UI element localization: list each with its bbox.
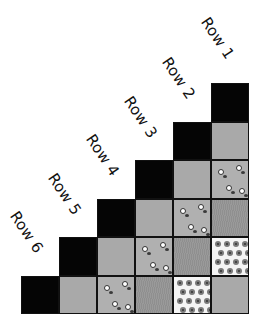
flower-motif <box>245 250 249 256</box>
flower-motif <box>188 224 194 230</box>
flower-motif <box>195 298 201 304</box>
leaf-motif <box>193 230 197 233</box>
flower-motif <box>227 268 233 274</box>
quilt-block-gray <box>173 160 211 199</box>
flower-motif <box>125 304 131 310</box>
quilt-block-gray <box>211 122 249 161</box>
flower-motif <box>180 307 186 313</box>
flower-motif <box>104 285 110 291</box>
flower-motif <box>218 169 224 175</box>
flower-motif <box>236 250 242 256</box>
flower-motif <box>236 165 242 171</box>
quilt-block-floral-small <box>135 237 173 276</box>
leaf-motif <box>231 191 235 194</box>
flower-motif <box>233 241 239 247</box>
row-label-1: Row 1 <box>197 14 238 63</box>
quilt-block-stripe <box>211 199 249 238</box>
flower-motif <box>189 289 195 295</box>
flower-motif <box>227 250 233 256</box>
flower-motif <box>189 307 195 313</box>
flower-motif <box>224 259 230 265</box>
leaf-motif <box>206 233 210 236</box>
flower-motif <box>245 268 249 274</box>
leaf-motif <box>147 252 151 255</box>
flower-motif <box>242 259 248 265</box>
flower-motif <box>198 204 204 210</box>
quilt-block-stripe <box>173 237 211 276</box>
flower-motif <box>218 268 224 274</box>
quilt-block-black <box>97 199 135 238</box>
leaf-motif <box>244 194 248 197</box>
quilt-block-gray <box>59 276 97 315</box>
flower-motif <box>204 298 210 304</box>
flower-motif <box>163 265 169 271</box>
flower-motif <box>201 227 207 233</box>
flower-motif <box>226 185 232 191</box>
flower-motif <box>239 188 245 194</box>
flower-motif <box>236 268 242 274</box>
flower-motif <box>177 280 183 286</box>
quilt-block-black <box>59 237 97 276</box>
flower-motif <box>142 246 148 252</box>
quilt-block-black <box>211 83 249 122</box>
flower-motif <box>233 259 239 265</box>
flower-motif <box>224 241 230 247</box>
flower-motif <box>180 208 186 214</box>
flower-motif <box>160 242 166 248</box>
quilt-grid <box>21 83 249 314</box>
flower-motif <box>177 298 183 304</box>
flower-motif <box>186 280 192 286</box>
leaf-motif <box>185 214 189 217</box>
quilt-block-gray <box>135 199 173 238</box>
leaf-motif <box>165 248 169 251</box>
leaf-motif <box>223 175 227 178</box>
quilt-block-black <box>21 276 59 315</box>
quilt-block-gray <box>211 276 249 315</box>
leaf-motif <box>127 287 131 290</box>
leaf-motif <box>168 271 172 274</box>
flower-motif <box>215 241 221 247</box>
flower-motif <box>218 250 224 256</box>
flower-motif <box>198 289 204 295</box>
flower-motif <box>215 259 221 265</box>
quilt-block-floral-white <box>211 237 249 276</box>
quilt-block-stripe <box>135 276 173 315</box>
leaf-motif <box>117 307 121 310</box>
quilt-block-black <box>173 122 211 161</box>
leaf-motif <box>130 310 134 313</box>
leaf-motif <box>203 210 207 213</box>
quilt-block-floral-small <box>211 160 249 199</box>
quilt-block-floral-small <box>97 276 135 315</box>
leaf-motif <box>155 268 159 271</box>
flower-motif <box>150 262 156 268</box>
flower-motif <box>195 280 201 286</box>
flower-motif <box>112 301 118 307</box>
flower-motif <box>186 298 192 304</box>
leaf-motif <box>241 171 245 174</box>
flower-motif <box>242 241 248 247</box>
quilt-block-floral-small <box>173 199 211 238</box>
flower-motif <box>180 289 186 295</box>
leaf-motif <box>109 291 113 294</box>
quilt-block-floral-white <box>173 276 211 315</box>
quilt-block-gray <box>97 237 135 276</box>
flower-motif <box>122 281 128 287</box>
flower-motif <box>198 307 204 313</box>
quilt-block-black <box>135 160 173 199</box>
flower-motif <box>204 280 210 286</box>
